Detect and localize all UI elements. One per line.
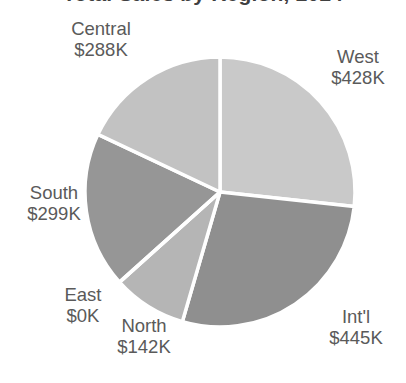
pie-label-central-value: $288K [46, 39, 156, 60]
pie-label-south-name: South [4, 182, 104, 203]
pie-label-west: West $428K [316, 46, 400, 88]
pie-label-central-name: Central [46, 18, 156, 39]
pie-label-north-value: $142K [92, 336, 196, 357]
pie-label-west-value: $428K [316, 67, 400, 88]
pie-label-intl: Int'l $445K [312, 306, 400, 348]
pie-label-central: Central $288K [46, 18, 156, 60]
pie-label-intl-name: Int'l [312, 306, 400, 327]
pie-label-south-value: $299K [4, 203, 104, 224]
pie-label-north-name: North [92, 315, 196, 336]
pie-label-intl-value: $445K [312, 327, 400, 348]
pie-chart-figure: Total Sales by Region, 2024 Central $288… [0, 0, 406, 383]
pie-label-south: South $299K [4, 182, 104, 224]
pie-label-west-name: West [316, 46, 400, 67]
pie-label-north: North $142K [92, 315, 196, 357]
pie-slices-group [85, 57, 355, 327]
pie-label-east-name: East [52, 284, 114, 305]
